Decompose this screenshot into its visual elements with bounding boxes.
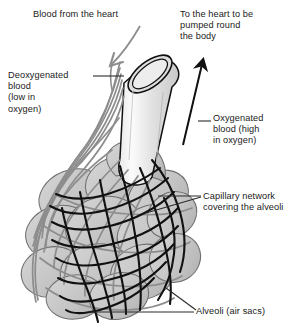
label-capillary-network: Capillary network covering the alveoli <box>203 191 284 213</box>
label-to-the-heart: To the heart to be pumped round the body <box>180 9 253 43</box>
label-blood-from-heart: Blood from the heart <box>33 9 118 20</box>
oxygenated-blood-arrow-icon <box>183 60 203 145</box>
deoxygenated-arrow-tail <box>111 64 113 90</box>
label-oxygenated-blood: Oxygenated blood (high in oxygen) <box>213 113 263 147</box>
diagram-canvas <box>0 0 290 333</box>
bronchiole-tube-icon <box>119 48 179 185</box>
label-alveoli: Alveoli (air sacs) <box>196 306 265 317</box>
deoxygenated-blood-arrow-icon <box>112 26 140 64</box>
label-deoxygenated-blood: Deoxygenated blood (low in oxygen) <box>8 70 68 115</box>
alveoli-diagram: Blood from the heart To the heart to be … <box>0 0 290 333</box>
